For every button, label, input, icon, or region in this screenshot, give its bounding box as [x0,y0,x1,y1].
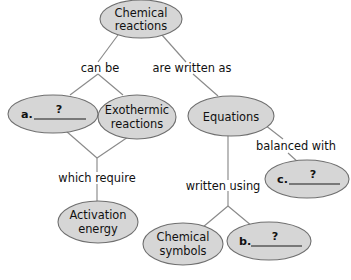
link-label-are-written-as: are written as [153,61,232,75]
node-chemical-reactions-line2: reactions [115,19,168,33]
connector-blank-a-to-junction [66,131,97,158]
connector-arewrittenas-to-equations [193,74,218,96]
connector-junction-to-blank-b [228,206,252,226]
node-chemical-reactions-line1: Chemical [115,6,168,20]
connector-junction-to-chemicalsymbols [203,206,228,227]
node-equations: Equations [188,96,274,136]
node-blank-c[interactable]: c. ? [265,160,349,198]
link-label-balanced-with: balanced with [256,139,336,153]
node-blank-a-letter: a. [21,108,33,121]
node-blank-c-question: ? [310,168,317,181]
concept-map-diagram: Chemical reactions can be are written as… [0,0,351,280]
node-chemical-symbols-line2: symbols [159,244,206,258]
connector-canbe-to-blank-a [70,74,98,95]
connector-chemreactions-to-arewrittenas [162,35,186,62]
node-activation-energy-line2: energy [78,222,118,236]
link-label-which-require: which require [58,171,135,185]
node-exothermic-reactions-line2: reactions [111,117,164,131]
node-blank-a-question: ? [56,103,63,116]
link-label-can-be: can be [81,61,119,75]
node-blank-a[interactable]: a. ? [8,95,98,133]
node-chemical-symbols-line1: Chemical [157,230,210,244]
node-exothermic-reactions-line1: Exothermic [105,103,169,117]
connector-exothermic-to-junction [97,137,128,158]
connector-chemreactions-to-canbe [98,35,118,62]
node-blank-c-letter: c. [277,173,288,186]
node-chemical-reactions: Chemical reactions [100,0,182,38]
node-activation-energy-line1: Activation [69,208,126,222]
node-equations-line1: Equations [203,110,259,124]
node-exothermic-reactions: Exothermic reactions [98,95,176,139]
node-blank-b-letter: b. [239,235,251,248]
node-blank-b-question: ? [272,230,279,243]
link-label-written-using: written using [186,179,261,193]
connector-canbe-to-exothermic [98,74,123,95]
node-blank-b[interactable]: b. ? [227,222,311,260]
node-chemical-symbols: Chemical symbols [143,223,223,265]
node-activation-energy: Activation energy [58,201,138,243]
